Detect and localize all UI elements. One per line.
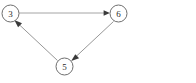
edge-5-to-3-line (18, 24, 58, 61)
node-3[interactable]: 3 (2, 5, 19, 22)
node-6[interactable]: 6 (110, 5, 127, 22)
edge-3-to-6 (19, 10, 110, 15)
edge-5-to-3 (14, 20, 57, 61)
edge-6-to-5-line (75, 22, 114, 58)
node-6-label: 6 (116, 9, 121, 19)
node-3-label: 3 (8, 9, 13, 19)
node-5-label: 5 (62, 62, 67, 72)
graph-diagram: 3 6 5 (0, 0, 196, 83)
node-5[interactable]: 5 (56, 58, 73, 75)
edge-3-to-6-arrowhead (104, 10, 110, 15)
edge-6-to-5 (71, 22, 113, 62)
graph-canvas: 3 6 5 (0, 0, 196, 83)
